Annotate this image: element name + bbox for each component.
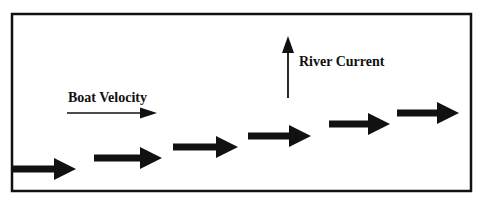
boat-path-arrow-icon [12, 158, 76, 180]
boat-velocity-arrow-icon [67, 108, 157, 119]
river-current-arrow-icon [282, 36, 294, 98]
boat-path-arrow-icon [397, 102, 459, 124]
river-current-label: River Current [299, 55, 384, 69]
boat-velocity-label: Boat Velocity [68, 91, 147, 105]
boat-path-arrow-icon [248, 125, 311, 147]
boat-path-arrow-icon [94, 147, 162, 169]
boat-path-arrow-icon [329, 113, 390, 135]
boat-path-arrow-icon [173, 136, 238, 158]
